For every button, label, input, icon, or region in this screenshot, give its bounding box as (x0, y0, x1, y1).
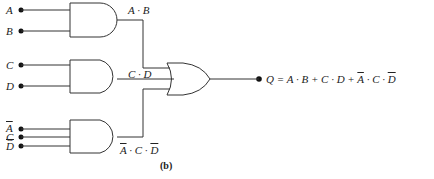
input-label-b: B (6, 26, 13, 37)
and1-output-label: A · B (128, 5, 150, 16)
input-label-c: C (6, 60, 13, 71)
circuit-diagram (0, 0, 434, 179)
subfigure-label: (b) (160, 160, 172, 171)
input-label-d-bar: D (6, 141, 14, 152)
input-label-a: A (6, 5, 13, 16)
output-expression: Q = A · B + C · D + A · C · D (266, 74, 396, 85)
and-gate-3 (70, 120, 113, 153)
and-gate-2 (70, 60, 113, 93)
and2-output-label: C · D (128, 69, 152, 80)
and3-output-label: A · C · D (120, 145, 158, 156)
input-label-d: D (6, 81, 14, 92)
and-gate-1 (70, 3, 117, 37)
